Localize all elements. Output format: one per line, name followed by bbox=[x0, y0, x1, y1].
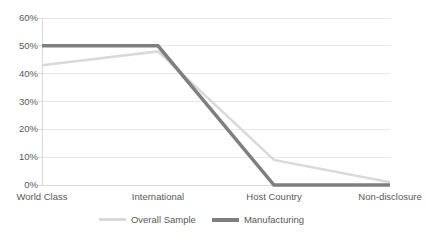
legend-item[interactable]: Manufacturing bbox=[212, 214, 304, 225]
y-axis-tick-label: 60% bbox=[4, 13, 38, 23]
series-lines bbox=[42, 46, 390, 185]
x-axis-tick-label: World Class bbox=[0, 191, 92, 202]
legend-label: Overall Sample bbox=[131, 214, 196, 225]
y-axis-tick-labels: 0%10%20%30%40%50%60% bbox=[0, 0, 38, 246]
legend-label: Manufacturing bbox=[244, 214, 304, 225]
gridlines bbox=[42, 18, 390, 185]
legend-item[interactable]: Overall Sample bbox=[99, 214, 196, 225]
x-axis-tick-label: Host Country bbox=[224, 191, 324, 202]
x-axis-tick-label: Non-disclosure bbox=[340, 191, 426, 202]
chart-legend: Overall SampleManufacturing bbox=[0, 214, 403, 225]
y-axis-tick-label: 20% bbox=[4, 124, 38, 134]
legend-swatch bbox=[212, 218, 239, 222]
y-axis-tick-label: 10% bbox=[4, 152, 38, 162]
x-axis-tick-label: International bbox=[108, 191, 208, 202]
y-axis-tick-label: 50% bbox=[4, 41, 38, 51]
y-axis-tick-label: 30% bbox=[4, 97, 38, 107]
y-axis-tick-label: 0% bbox=[4, 180, 38, 190]
series-line bbox=[42, 46, 390, 185]
y-axis-tick-label: 40% bbox=[4, 69, 38, 79]
legend-swatch bbox=[99, 218, 126, 221]
